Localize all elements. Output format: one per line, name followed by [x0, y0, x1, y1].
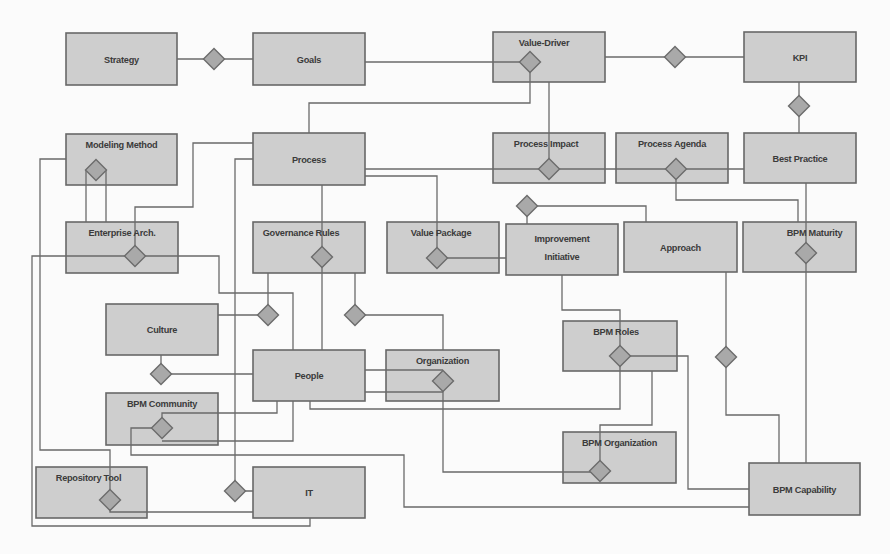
relation-diamond-icon-kpi-best-practice[interactable]	[789, 96, 810, 117]
entity-label-organization: Organization	[416, 356, 470, 366]
entity-label-culture: Culture	[147, 325, 178, 335]
entity-label-best-practice: Best Practice	[773, 154, 828, 164]
entity-label-strategy: Strategy	[104, 55, 140, 65]
connector-line	[218, 273, 268, 315]
entity-boxes-layer	[36, 32, 860, 518]
entity-label-bpm-roles: BPM Roles	[593, 327, 639, 337]
connector-line	[527, 206, 646, 222]
connector-line	[726, 272, 779, 463]
entity-label-process: Process	[292, 155, 326, 165]
relation-diamond-icon-governance-organization[interactable]	[345, 305, 366, 326]
entity-label-value-driver: Value-Driver	[519, 38, 570, 48]
entity-label-kpi: KPI	[793, 53, 808, 63]
entity-label-improvement-initiative: Improvement	[535, 234, 590, 244]
entity-label-repository-tool: Repository Tool	[56, 473, 122, 483]
relation-diamond-icon-it-link[interactable]	[225, 481, 246, 502]
entity-label-people: People	[295, 371, 324, 381]
entity-label-bpm-maturity: BPM Maturity	[787, 228, 844, 238]
diagram-canvas: StrategyGoalsValue-DriverKPIModeling Met…	[0, 0, 890, 554]
relation-diamond-icon-strategy-goals[interactable]	[204, 49, 225, 70]
relation-diamond-icon-culture-governance[interactable]	[258, 305, 279, 326]
entity-label-modeling-method: Modeling Method	[86, 140, 158, 150]
entity-label-bpm-organization: BPM Organization	[582, 438, 658, 448]
entity-label-governance-rules: Governance Rules	[263, 228, 340, 238]
connector-line	[161, 355, 253, 374]
entity-label-goals: Goals	[297, 55, 321, 65]
relation-diamond-icon-culture-people[interactable]	[151, 364, 172, 385]
entity-label-process-impact: Process Impact	[514, 139, 579, 149]
relation-diamond-icon-value-driver-kpi[interactable]	[665, 47, 686, 68]
connector-line	[40, 159, 110, 500]
entity-label-bpm-capability: BPM Capability	[773, 485, 838, 495]
entity-label-bpm-community: BPM Community	[127, 399, 198, 409]
entity-label-process-agenda: Process Agenda	[638, 139, 707, 149]
entity-label-improvement-initiative: Initiative	[545, 252, 580, 262]
entity-label-enterprise-arch: Enterprise Arch.	[88, 228, 155, 238]
bpm-entity-relationship-diagram: StrategyGoalsValue-DriverKPIModeling Met…	[0, 0, 890, 554]
entity-label-value-package: Value Package	[411, 228, 472, 238]
entity-label-approach: Approach	[660, 243, 702, 253]
connector-line	[355, 273, 443, 350]
relation-diamond-icon-improvement-initiative-link[interactable]	[517, 196, 538, 217]
connector-lines-layer	[32, 57, 806, 526]
entity-label-it: IT	[305, 488, 313, 498]
relation-diamond-icon-approach-capability[interactable]	[716, 347, 737, 368]
entity-improvement-initiative[interactable]	[506, 224, 618, 275]
